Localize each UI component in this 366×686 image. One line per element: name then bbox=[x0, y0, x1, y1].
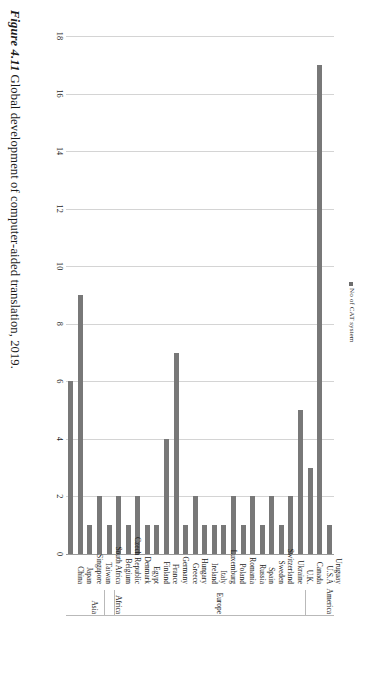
category-axis-labels: ChinaJapanSingaporeTaiwanSouth AfricaBel… bbox=[66, 554, 334, 584]
rotated-figure-stage: No of CAT system 024681012141618 ChinaJa… bbox=[0, 0, 366, 686]
plot-area bbox=[66, 36, 334, 554]
bar-poland bbox=[231, 496, 236, 554]
category-label-egypt: Egypt bbox=[152, 566, 161, 584]
bar-chart: No of CAT system 024681012141618 ChinaJa… bbox=[32, 6, 362, 618]
category-label-france: France bbox=[171, 564, 180, 584]
gridline-10 bbox=[66, 266, 334, 267]
legend-square-marker-icon bbox=[349, 282, 353, 286]
category-label-spain: Spain bbox=[267, 567, 276, 584]
group-separator-asia bbox=[104, 590, 105, 616]
bar-singapore bbox=[87, 525, 92, 554]
bar-russia bbox=[250, 496, 255, 554]
category-label-singapore: Singapore bbox=[94, 554, 103, 584]
group-separator-europe bbox=[305, 590, 306, 616]
x-tick-10: 10 bbox=[55, 262, 64, 270]
figure-caption-text: Global development of computer-aided tra… bbox=[8, 75, 22, 369]
category-label-u-k-: U.K. bbox=[305, 570, 314, 584]
group-label-europe: Europe bbox=[214, 593, 223, 614]
bar-switzerland bbox=[279, 525, 284, 554]
category-label-ireland: Ireland bbox=[209, 563, 218, 584]
group-axis-line bbox=[66, 615, 334, 616]
category-label-poland: Poland bbox=[238, 563, 247, 584]
category-label-sweden: Sweden bbox=[276, 561, 285, 584]
bar-taiwan bbox=[97, 496, 102, 554]
x-tick-2: 2 bbox=[55, 494, 64, 498]
bar-finland bbox=[154, 525, 159, 554]
bar-luxemburg bbox=[221, 525, 226, 554]
category-label-finland: Finland bbox=[161, 561, 170, 584]
bar-italy bbox=[212, 525, 217, 554]
category-label-ukraine: Ukraine bbox=[295, 560, 304, 584]
x-tick-18: 18 bbox=[55, 32, 64, 40]
group-label-asia: Asia bbox=[90, 600, 99, 614]
category-label-switzerland: Switzerland bbox=[286, 549, 295, 584]
category-label-china: China bbox=[75, 566, 84, 584]
category-label-denmark: Denmark bbox=[142, 557, 151, 585]
bar-canada bbox=[308, 468, 313, 554]
bar-czech-republic bbox=[126, 525, 131, 554]
gridline-12 bbox=[66, 209, 334, 210]
category-label-south-africa: South Africa bbox=[114, 546, 123, 584]
x-tick-4: 4 bbox=[55, 437, 64, 441]
x-tick-16: 16 bbox=[55, 89, 64, 97]
group-label-africa: Africa bbox=[114, 595, 123, 614]
gridline-8 bbox=[66, 324, 334, 325]
gridline-14 bbox=[66, 151, 334, 152]
bar-sweden bbox=[269, 496, 274, 554]
category-label-germany: Germany bbox=[181, 557, 190, 585]
gridline-16 bbox=[66, 94, 334, 95]
legend-label-no-of-cat-system: No of CAT system bbox=[348, 288, 356, 342]
bar-ireland bbox=[202, 525, 207, 554]
category-label-uruguay: Uruguay bbox=[334, 558, 343, 584]
bar-japan bbox=[78, 295, 83, 554]
bar-hungary bbox=[193, 496, 198, 554]
category-label-taiwan: Taiwan bbox=[104, 562, 113, 584]
bar-france bbox=[164, 439, 169, 554]
bar-china bbox=[68, 381, 73, 554]
x-tick-6: 6 bbox=[55, 379, 64, 383]
x-tick-12: 12 bbox=[55, 205, 64, 213]
category-label-greece: Greece bbox=[190, 563, 199, 584]
category-label-romania: Romania bbox=[248, 557, 257, 584]
category-label-u-s-a: U.S.A bbox=[324, 566, 333, 584]
figure-container: No of CAT system 024681012141618 ChinaJa… bbox=[0, 0, 366, 686]
bar-germany bbox=[174, 353, 179, 554]
bar-south-africa bbox=[107, 525, 112, 554]
category-label-italy: Italy bbox=[219, 570, 228, 584]
bar-romania bbox=[241, 525, 246, 554]
x-tick-14: 14 bbox=[55, 147, 64, 155]
bar-uruguay bbox=[327, 525, 332, 554]
chart-legend: No of CAT system bbox=[347, 6, 356, 618]
x-tick-0: 0 bbox=[55, 552, 64, 556]
category-label-czech-republic: Czech Republic bbox=[133, 537, 142, 584]
gridline-2 bbox=[66, 496, 334, 497]
category-label-canada: Canada bbox=[315, 562, 324, 584]
plot-inner bbox=[66, 36, 334, 554]
group-label-america: America bbox=[324, 589, 333, 614]
figure-number: Figure 4.11 bbox=[8, 10, 22, 71]
category-label-belgium: Belgium bbox=[123, 559, 132, 584]
bar-belgium bbox=[116, 496, 121, 554]
category-label-hungary: Hungary bbox=[200, 558, 209, 584]
gridline-18 bbox=[66, 36, 334, 37]
bar-ukraine bbox=[288, 496, 293, 554]
category-label-luxemburg: Luxemburg bbox=[228, 550, 237, 584]
gridline-6 bbox=[66, 381, 334, 382]
bar-greece bbox=[183, 525, 188, 554]
gridline-4 bbox=[66, 439, 334, 440]
figure-caption: Figure 4.11 Global development of comput… bbox=[6, 10, 22, 670]
group-axis-labels: AsiaAfricaEuropeAmerica bbox=[66, 586, 334, 616]
bar-u-s-a bbox=[317, 65, 322, 554]
x-tick-8: 8 bbox=[55, 322, 64, 326]
category-label-russia: Russia bbox=[257, 564, 266, 584]
bar-egypt bbox=[145, 525, 150, 554]
group-separator-africa bbox=[114, 590, 115, 616]
bar-spain bbox=[260, 525, 265, 554]
category-label-japan: Japan bbox=[85, 567, 94, 584]
bar-u-k- bbox=[298, 410, 303, 554]
x-axis-tick-labels: 024681012141618 bbox=[44, 36, 64, 554]
